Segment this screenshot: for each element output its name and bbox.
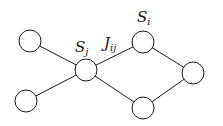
node-right [182, 62, 204, 84]
node-s-j [75, 59, 97, 81]
graph-diagram: Sj Jij Si [0, 0, 223, 126]
node-bottom-right [132, 97, 154, 119]
node-top-left [19, 30, 41, 52]
label-s-i: Si [137, 8, 150, 27]
node-bottom-left [15, 90, 37, 112]
label-j-ij: Jij [101, 34, 116, 53]
label-s-j: Sj [75, 38, 88, 57]
node-s-i [132, 31, 154, 53]
